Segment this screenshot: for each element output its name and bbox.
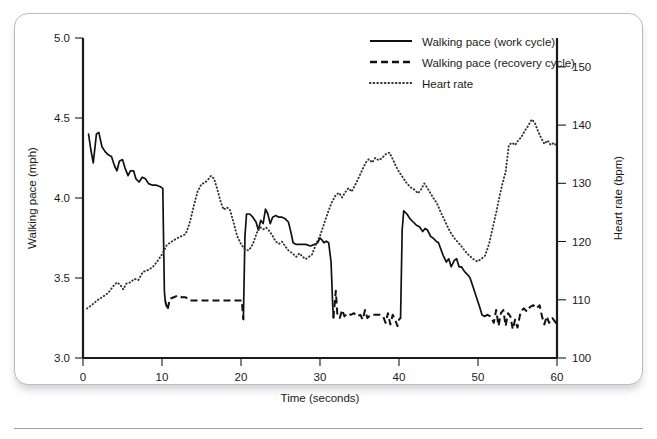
y-axis-left-ticks: 3.0 3.5 4.0 4.5 5.0 bbox=[54, 32, 83, 364]
x-axis-ticks: 0 10 20 30 40 50 60 bbox=[80, 358, 564, 383]
x-label-60: 60 bbox=[551, 371, 564, 383]
y-right-label-110: 110 bbox=[572, 294, 590, 306]
x-label-10: 10 bbox=[156, 371, 169, 383]
x-label-50: 50 bbox=[472, 371, 485, 383]
series-line-solid-0-1 bbox=[243, 209, 333, 319]
y-axis-right-ticks: 100 110 120 130 140 150 bbox=[557, 61, 591, 364]
y-axis-right-title: Heart rate (bpm) bbox=[612, 156, 624, 241]
x-label-30: 30 bbox=[314, 371, 327, 383]
y-left-label-3_5: 3.5 bbox=[54, 272, 70, 284]
y-right-label-120: 120 bbox=[572, 236, 591, 248]
x-axis-title: Time (seconds) bbox=[281, 392, 360, 404]
series-line-dashed-1-0 bbox=[165, 296, 243, 320]
x-label-0: 0 bbox=[80, 371, 86, 383]
series-line-solid-0-2 bbox=[401, 211, 485, 318]
x-label-20: 20 bbox=[235, 371, 248, 383]
legend: Walking pace (work cycle) Walking pace (… bbox=[370, 36, 575, 90]
x-label-40: 40 bbox=[393, 371, 406, 383]
y-right-label-100: 100 bbox=[572, 352, 591, 364]
y-axis-left-title: Walking pace (mph) bbox=[26, 147, 38, 249]
series-line-solid-0-0 bbox=[89, 132, 166, 300]
series-line-dashed-1-2 bbox=[484, 305, 557, 329]
y-left-label-4_5: 4.5 bbox=[54, 112, 70, 124]
series-layer bbox=[87, 119, 557, 329]
y-left-label-4_0: 4.0 bbox=[54, 192, 70, 204]
chart-canvas: 3.0 3.5 4.0 4.5 5.0 100 110 120 130 140 … bbox=[0, 0, 657, 439]
series-line-dotted-2-0 bbox=[87, 119, 557, 308]
legend-label-heart-rate: Heart rate bbox=[422, 78, 473, 90]
y-right-label-130: 130 bbox=[572, 177, 591, 189]
series-line-dashed-1-1 bbox=[333, 291, 400, 326]
figure-page: 3.0 3.5 4.0 4.5 5.0 100 110 120 130 140 … bbox=[0, 0, 657, 439]
y-left-label-3_0: 3.0 bbox=[54, 352, 70, 364]
y-right-label-140: 140 bbox=[572, 119, 591, 131]
legend-label-work-cycle: Walking pace (work cycle) bbox=[422, 36, 555, 48]
legend-label-recovery-cycle: Walking pace (recovery cycle) bbox=[422, 57, 575, 69]
axes-group bbox=[83, 38, 557, 358]
y-left-label-5_0: 5.0 bbox=[54, 32, 70, 44]
